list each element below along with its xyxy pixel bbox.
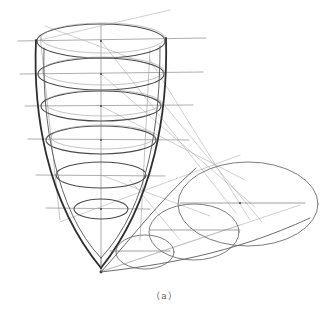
shadow-ellipses: [116, 162, 318, 269]
horizontal-guide-lines: [18, 38, 206, 209]
perspective-drawing: [0, 0, 329, 318]
center-points: [100, 40, 241, 210]
shadow-tangent-lines: [101, 168, 310, 272]
diagonal-guide-lines: [40, 10, 300, 272]
figure-caption: （a）: [0, 289, 329, 302]
shadow-axis-lines: [110, 203, 305, 251]
